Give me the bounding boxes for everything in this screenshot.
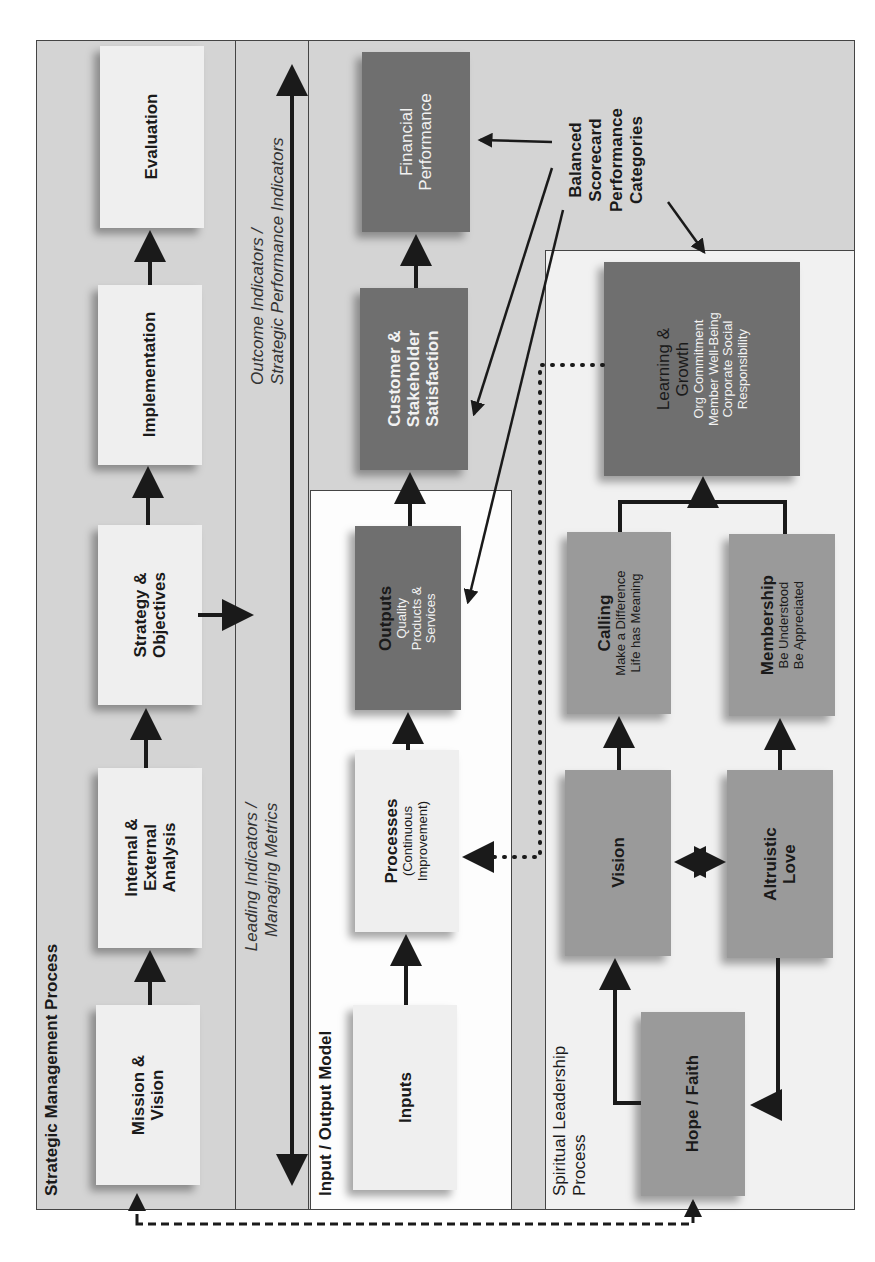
mission-vision-box: Mission &Vision (96, 1005, 200, 1185)
altruistic-love-box: AltruisticLove (727, 770, 833, 958)
processes-box: Processes(ContinuousImprovement) (355, 750, 459, 932)
bsc-line3: Performance (607, 108, 626, 212)
spiritual-title-line1: Spiritual Leadership (550, 1046, 569, 1196)
evaluation-box: Evaluation (100, 46, 204, 228)
learning-sub1: Org Commitment (692, 312, 707, 426)
outcome-line1: Outcome Indicators / (248, 228, 267, 385)
calling-sub2: Life has Meaning (629, 570, 644, 675)
internal-label: Internal & (121, 819, 140, 897)
growth-label: Growth (673, 342, 692, 397)
balanced-scorecard-label: Balanced Scorecard Performance Categorie… (566, 108, 648, 212)
stakeholder-label: Stakeholder (404, 330, 423, 427)
inputs-label: Inputs (395, 1072, 414, 1123)
leading-indicators-label: Leading Indicators /Managing Metrics (242, 803, 283, 955)
learning-sub3: Corporate Social (721, 312, 736, 426)
leading-line2: Managing Metrics (262, 803, 281, 955)
outcome-indicators-label: Outcome Indicators /Strategic Performanc… (248, 137, 289, 385)
spiritual-title-line2: Process (570, 1135, 589, 1196)
input-output-model-title: Input / Output Model (316, 1031, 336, 1196)
outputs-label: Outputs (377, 585, 396, 650)
spiritual-leadership-title: Spiritual LeadershipProcess (550, 1046, 589, 1196)
leading-line1: Leading Indicators / (242, 803, 261, 951)
customer-label: Customer & (385, 331, 404, 427)
processes-sub2: Improvement) (417, 798, 432, 883)
bsc-line4: Categories (627, 116, 646, 204)
hope-faith-box: Hope / Faith (641, 1012, 745, 1196)
objectives-label: Objectives (150, 572, 169, 658)
membership-label: Membership (758, 575, 777, 675)
strategy-objectives-box: Strategy &Objectives (98, 525, 202, 705)
calling-box: CallingMake a DifferenceLife has Meaning (567, 532, 671, 714)
learning-sub2: Member Well-Being (706, 312, 721, 426)
processes-label: Processes (383, 798, 402, 883)
hope-faith-label: Hope / Faith (683, 1055, 702, 1152)
implementation-label: Implementation (140, 312, 159, 438)
outputs-sub1: Quality (396, 585, 411, 650)
learning-label: Learning & (654, 328, 673, 410)
evaluation-label: Evaluation (142, 94, 161, 180)
learning-sub4: Responsibility (736, 312, 751, 426)
financial-label: Financial (397, 108, 416, 176)
satisfaction-label: Satisfaction (424, 331, 443, 427)
membership-sub1: Be Understood (777, 575, 792, 675)
love-label: Love (780, 844, 799, 884)
membership-sub2: Be Appreciated (792, 575, 807, 675)
financial-performance-box: FinancialPerformance (362, 52, 470, 232)
performance-label: Performance (416, 93, 435, 190)
vision-label: Vision (148, 1070, 167, 1121)
inputs-box: Inputs (353, 1005, 457, 1190)
bsc-line1: Balanced (566, 122, 585, 198)
vision-label: Vision (608, 838, 627, 889)
altruistic-label: Altruistic (761, 827, 780, 901)
outputs-sub3: Services (425, 585, 440, 650)
outcome-line2: Strategic Performance Indicators (268, 137, 287, 385)
learning-growth-box: Learning &GrowthOrg CommitmentMember Wel… (604, 262, 800, 476)
mission-label: Mission & (129, 1055, 148, 1135)
calling-label: Calling (595, 595, 614, 652)
processes-sub1: (Continuous (402, 798, 417, 883)
bsc-line2: Scorecard (586, 118, 605, 201)
membership-box: MembershipBe UnderstoodBe Appreciated (729, 534, 835, 716)
internal-external-analysis-box: Internal &ExternalAnalysis (98, 768, 202, 948)
strategic-management-title: Strategic Management Process (42, 944, 62, 1196)
vision-box: Vision (565, 770, 671, 956)
implementation-box: Implementation (98, 285, 202, 465)
analysis-label: Analysis (160, 823, 179, 893)
strategy-label: Strategy & (131, 572, 150, 657)
calling-sub1: Make a Difference (614, 570, 629, 675)
customer-stakeholder-satisfaction-box: Customer &StakeholderSatisfaction (360, 288, 468, 470)
external-label: External (140, 824, 159, 891)
outputs-box: OutputsQualityProducts &Services (355, 526, 461, 710)
